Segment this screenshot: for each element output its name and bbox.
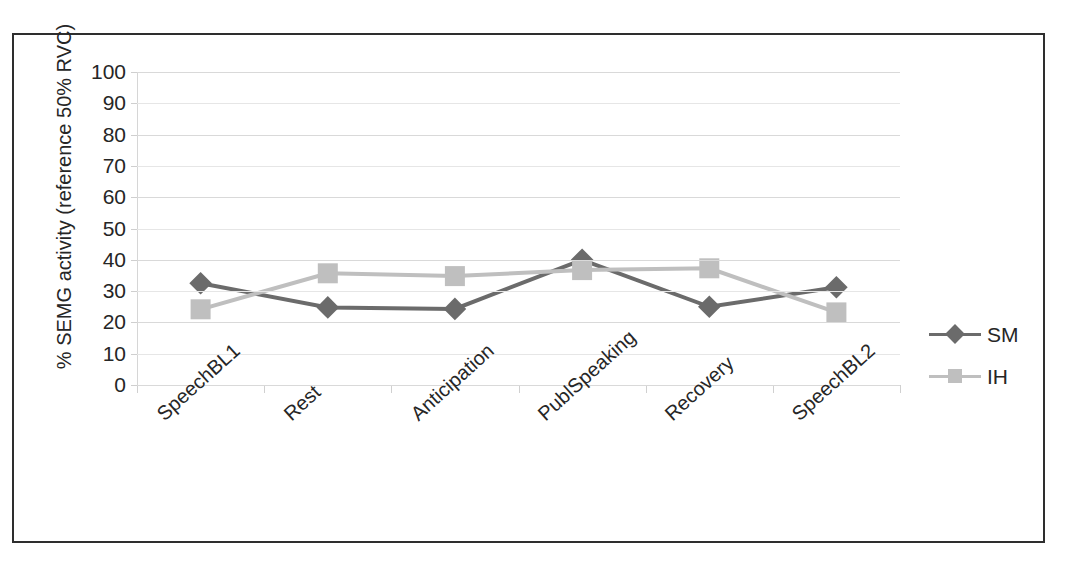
chart-screenshot: % SEMG activity (reference 50% RVC) 1009… [0,0,1075,568]
x-axis-tick [264,386,265,393]
data-point-square-marker [826,302,846,322]
legend-item-sm[interactable]: SM [929,313,1039,355]
y-axis-tick-label: 40 [103,249,126,270]
y-axis-tick-label: 70 [103,155,126,176]
legend-item-label: SM [987,324,1019,345]
y-axis-tick-label: 0 [114,374,126,395]
y-axis-tick-label: 100 [91,61,126,82]
gridline [137,322,900,323]
data-point-square-marker [699,258,719,278]
x-axis-tick [391,386,392,393]
legend-key-marker [948,369,962,383]
data-point-square-marker [318,263,338,283]
y-axis-tick [131,197,137,198]
diamond-marker-icon [929,324,981,344]
x-axis-category-label: Rest [280,381,324,423]
gridline [137,166,900,167]
legend-item-ih[interactable]: IH [929,355,1039,397]
x-axis-tick [519,386,520,393]
data-point-diamond-marker [825,276,848,299]
gridline [137,229,900,230]
gridline [137,291,900,292]
y-axis-tick-label: 80 [103,124,126,145]
plot-area [137,72,900,385]
data-point-square-marker [191,299,211,319]
y-axis-tick [131,72,137,73]
y-axis-tick-label: 10 [103,343,126,364]
y-axis-tick [131,135,137,136]
x-axis-tick [773,386,774,393]
y-axis-tick [131,322,137,323]
chart-legend: SMIH [929,313,1039,397]
y-axis-tick [131,291,137,292]
y-axis-tick-label: 60 [103,186,126,207]
legend-key-marker [945,324,965,344]
y-axis-tick [131,166,137,167]
x-axis-tick [900,386,901,393]
gridline [137,197,900,198]
chart-frame: % SEMG activity (reference 50% RVC) 1009… [12,33,1045,543]
data-point-square-marker [572,260,592,280]
data-point-diamond-marker [444,298,467,321]
data-point-diamond-marker [698,295,721,318]
square-marker-icon [929,366,981,386]
y-axis-tick [131,103,137,104]
gridline [137,103,900,104]
gridline [137,260,900,261]
x-axis-tick [137,386,138,393]
y-axis-tick-label: 20 [103,311,126,332]
gridline [137,135,900,136]
legend-item-label: IH [987,366,1008,387]
y-axis-tick-label: 30 [103,280,126,301]
y-axis-tick-labels: 1009080706050403020100 [54,35,126,541]
data-point-diamond-marker [316,296,339,319]
y-axis-tick [131,229,137,230]
data-point-square-marker [445,266,465,286]
gridline [137,354,900,355]
y-axis-tick-label: 50 [103,218,126,239]
gridline [137,72,900,73]
y-axis-tick [131,354,137,355]
y-axis-tick-label: 90 [103,92,126,113]
x-axis-tick [646,386,647,393]
y-axis-tick [131,260,137,261]
